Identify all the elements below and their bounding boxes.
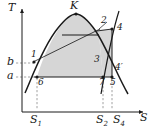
- x-tick-label-s4-base: S: [113, 113, 121, 126]
- marker-k: [74, 12, 77, 15]
- label-state-3: 3: [94, 55, 100, 64]
- label-state-5: 5: [110, 78, 116, 87]
- x-tick-label-s2-sub: 2: [104, 120, 108, 128]
- marker-4: [110, 27, 113, 30]
- x-tick-label-s4-sub: 4: [121, 120, 125, 128]
- x-axis-label: S: [140, 112, 148, 123]
- y-axis-label: T: [8, 2, 15, 13]
- marker-1: [32, 60, 35, 63]
- label-state-4-prime: 4′: [115, 63, 123, 72]
- x-tick-label-s2: S2: [96, 114, 108, 128]
- label-state-7: 7: [99, 78, 105, 87]
- x-tick-label-s2-base: S: [96, 113, 104, 126]
- y-value-label-b: b: [7, 56, 14, 67]
- label-state-4: 4: [117, 23, 123, 32]
- x-tick-label-s4: S4: [113, 114, 125, 128]
- y-value-label-a: a: [7, 70, 14, 81]
- diagram-canvas: [0, 0, 149, 132]
- x-tick-label-s1: S1: [30, 114, 42, 128]
- label-critical-point-k: K: [70, 0, 78, 11]
- label-state-1: 1: [31, 50, 37, 59]
- x-tick-label-s1-base: S: [30, 113, 38, 126]
- ts-diagram-figure: T S b a S1 S2 S4 K 1 2 3 4 4′ 5 6 7: [0, 0, 149, 132]
- label-state-2: 2: [101, 16, 107, 25]
- x-tick-label-s1-sub: 1: [38, 120, 42, 128]
- label-state-6: 6: [38, 78, 44, 87]
